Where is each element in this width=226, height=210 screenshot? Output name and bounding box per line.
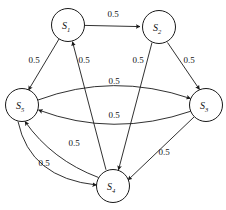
edge-label-s4-s1: 0.5 xyxy=(78,55,90,65)
edge-label-s3-s4: 0.5 xyxy=(158,147,170,157)
node-s2[interactable]: S2 xyxy=(143,11,176,44)
edge-s5-s4 xyxy=(18,122,97,186)
diagram-canvas: 0.5 0.5 0.5 0.5 0.5 0.5 0.5 0.5 0.5 0.5 … xyxy=(0,0,226,210)
node-s4[interactable]: S4 xyxy=(97,170,130,203)
edge-s1-s2 xyxy=(85,25,141,26)
edge-label-s2-s4: 0.5 xyxy=(132,55,144,65)
edge-label-s1-s2: 0.5 xyxy=(107,9,119,19)
edge-label-s1-s5: 0.5 xyxy=(28,55,40,65)
edge-label-s5-s4: 0.5 xyxy=(38,158,50,168)
edge-s2-s3 xyxy=(168,43,200,90)
edge-label-s5-s3: 0.5 xyxy=(108,76,120,86)
node-s1[interactable]: S1 xyxy=(52,9,85,42)
node-s5[interactable]: S5 xyxy=(6,89,39,122)
edge-label-s4-s5: 0.5 xyxy=(68,138,80,148)
edge-label-s2-s3: 0.5 xyxy=(183,55,195,65)
state-transition-diagram: 0.5 0.5 0.5 0.5 0.5 0.5 0.5 0.5 0.5 0.5 … xyxy=(0,0,226,210)
node-s3[interactable]: S3 xyxy=(190,89,223,122)
edge-s5-s3 xyxy=(38,86,191,100)
edge-s4-s5 xyxy=(25,122,99,178)
edge-label-s3-s5: 0.5 xyxy=(108,110,120,120)
